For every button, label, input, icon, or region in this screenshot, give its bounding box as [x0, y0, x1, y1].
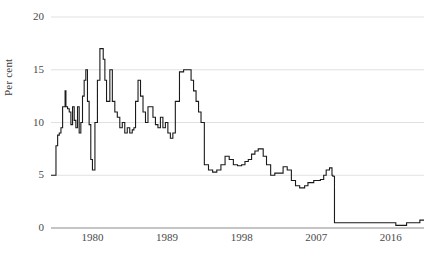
plot-area — [0, 0, 429, 259]
series-line-bank-rate — [51, 49, 424, 226]
chart-container: Per cent 20 15 10 5 0 1980 1989 1998 200… — [0, 0, 429, 259]
